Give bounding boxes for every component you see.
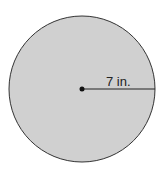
center-point xyxy=(80,87,85,92)
circle-diagram: 7 in. xyxy=(0,0,164,175)
radius-label: 7 in. xyxy=(106,74,131,89)
